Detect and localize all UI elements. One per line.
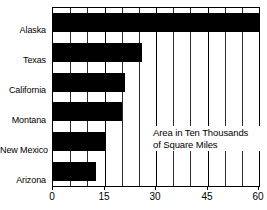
category-label-alaska: Alaska <box>0 25 46 35</box>
gridline-minor-10 <box>87 8 88 186</box>
x-tick-label-60: 60 <box>252 191 263 203</box>
gridline-minor-55 <box>242 8 243 186</box>
gridline-minor-50 <box>225 8 226 186</box>
category-label-texas: Texas <box>0 55 46 65</box>
bar-new-mexico <box>53 132 105 151</box>
gridline-major-30 <box>156 8 157 186</box>
category-label-montana: Montana <box>0 115 46 125</box>
x-axis: 015304560 <box>52 186 260 210</box>
x-tick-60 <box>258 186 259 190</box>
chart-annotation-line-2: of Square Miles <box>153 139 259 151</box>
gridline-minor-40 <box>190 8 191 186</box>
gridline-major-15 <box>105 8 106 186</box>
gridline-minor-5 <box>70 8 71 186</box>
x-tick-label-30: 30 <box>149 191 160 203</box>
bar-montana <box>53 102 122 121</box>
bar-chart: Alaska Texas California Montana New Mexi… <box>0 0 267 210</box>
bar-alaska <box>53 13 259 32</box>
bar-arizona <box>53 162 96 181</box>
plot-inner: Area in Ten Thousands of Square Miles <box>53 8 259 186</box>
category-label-california: California <box>0 85 46 95</box>
x-tick-30 <box>155 186 156 190</box>
x-tick-0 <box>52 186 53 190</box>
bar-texas <box>53 43 142 62</box>
category-axis: Alaska Texas California Montana New Mexi… <box>0 7 49 185</box>
bar-california <box>53 73 125 92</box>
x-tick-label-45: 45 <box>201 191 212 203</box>
chart-annotation-line-1: Area in Ten Thousands <box>153 127 259 139</box>
x-tick-label-15: 15 <box>98 191 109 203</box>
chart-annotation: Area in Ten Thousands of Square Miles <box>151 126 260 151</box>
x-tick-label-0: 0 <box>49 191 55 203</box>
category-label-arizona: Arizona <box>0 175 46 185</box>
gridline-minor-35 <box>173 8 174 186</box>
x-tick-45 <box>207 186 208 190</box>
plot-area: Area in Ten Thousands of Square Miles <box>52 7 260 187</box>
x-tick-15 <box>104 186 105 190</box>
category-label-new-mexico: New Mexico <box>0 145 46 155</box>
gridline-minor-25 <box>139 8 140 186</box>
gridline-major-45 <box>208 8 209 186</box>
gridline-minor-20 <box>122 8 123 186</box>
